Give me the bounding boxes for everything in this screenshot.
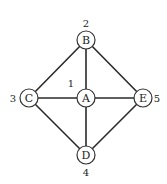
node-number-label: 4 xyxy=(83,167,89,178)
node-d: D4 xyxy=(77,146,95,178)
node-number-label: 3 xyxy=(10,93,16,104)
node-label: C xyxy=(25,92,33,105)
graph-diagram: A1B2C3D4E5 xyxy=(0,0,167,184)
node-a: A1 xyxy=(68,78,95,108)
node-e: E5 xyxy=(134,89,160,107)
edge-b-c xyxy=(29,40,86,98)
node-label: A xyxy=(81,92,91,105)
node-c: C3 xyxy=(10,89,38,107)
node-label: D xyxy=(82,149,91,162)
node-number-label: 2 xyxy=(83,18,89,29)
node-number-label: 5 xyxy=(154,93,160,104)
node-label: B xyxy=(82,34,90,47)
node-label: E xyxy=(139,92,147,105)
edge-e-d xyxy=(86,98,143,155)
nodes-group: A1B2C3D4E5 xyxy=(10,18,160,178)
node-b: B2 xyxy=(77,18,95,50)
edge-b-e xyxy=(86,40,143,98)
edge-c-d xyxy=(29,98,86,155)
node-number-label: 1 xyxy=(68,78,74,89)
